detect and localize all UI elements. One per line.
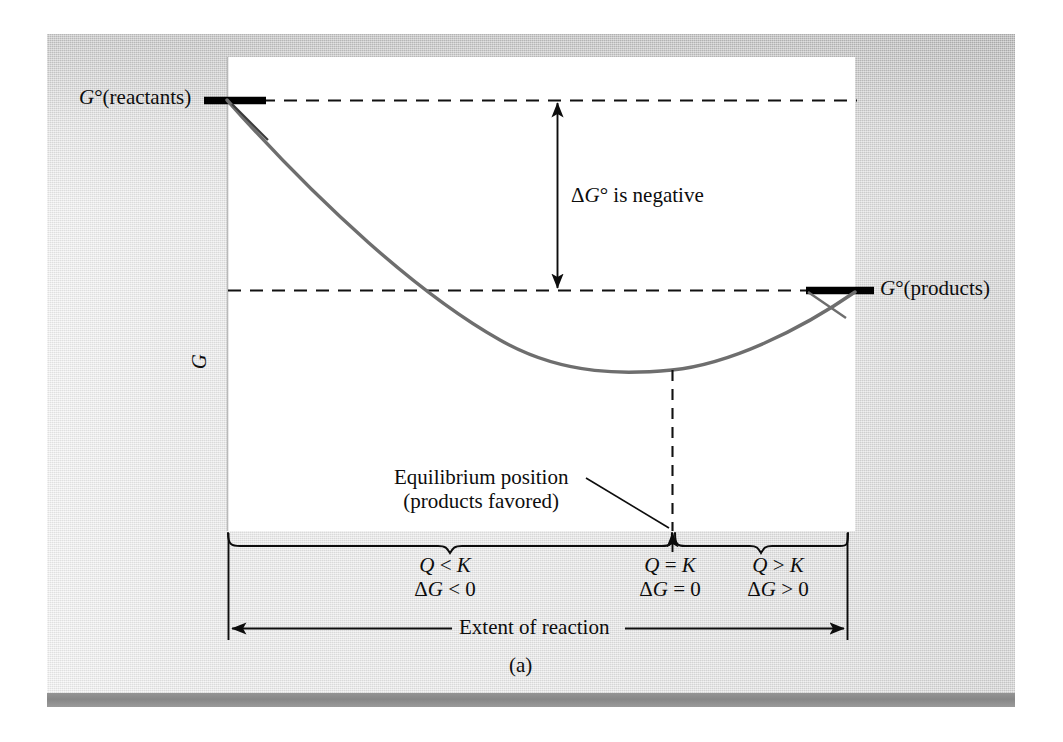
region-equilibrium-dg-line: ΔG = 0 (614, 578, 726, 602)
region-equilibrium-label: Q = K ΔG = 0 (614, 554, 726, 601)
products-energy-label: G°(products) (880, 277, 990, 301)
region-reactants-q-line: Q < K (389, 554, 501, 578)
region-reactants-label: Q < K ΔG < 0 (389, 554, 501, 601)
delta-g-standard-label: ΔG° is negative (571, 184, 704, 208)
y-axis-label: G (188, 354, 212, 369)
region-products-q-line: Q > K (722, 554, 834, 578)
region-equilibrium-q-line: Q = K (614, 554, 726, 578)
equilibrium-position-label: Equilibrium position (products favored) (394, 466, 568, 513)
equilibrium-position-line1: Equilibrium position (394, 466, 568, 490)
reactants-energy-label: G°(reactants) (79, 86, 191, 110)
region-products-label: Q > K ΔG > 0 (722, 554, 834, 601)
x-axis-label: Extent of reaction (453, 616, 615, 640)
region-products-dg-line: ΔG > 0 (722, 578, 834, 602)
bottom-decorative-band (47, 693, 1015, 707)
region-reactants-dg-line: ΔG < 0 (389, 578, 501, 602)
equilibrium-position-line2: (products favored) (394, 490, 568, 514)
plot-area (227, 57, 855, 531)
figure-caption: (a) (509, 654, 532, 678)
